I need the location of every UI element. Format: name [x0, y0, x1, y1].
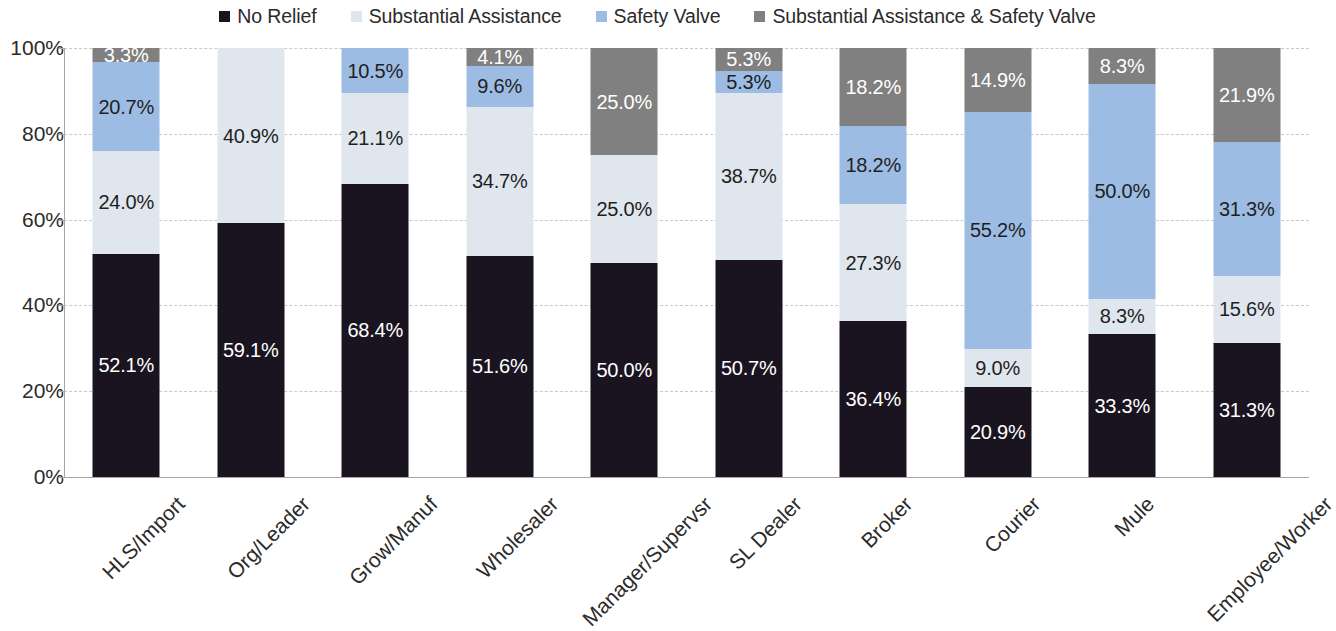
- legend-swatch-icon: [596, 11, 607, 22]
- bar-segment-value-label: 20.7%: [98, 97, 154, 117]
- bar-segment[interactable]: 68.4%: [342, 184, 409, 477]
- x-label-slot: Mule: [1060, 486, 1185, 608]
- bar-segment-value-label: 31.3%: [1219, 400, 1275, 420]
- bar-segment[interactable]: 50.0%: [1089, 84, 1156, 299]
- legend-item: No Relief: [219, 5, 316, 28]
- y-axis-tick-label: 40%: [0, 293, 64, 317]
- bar-segment[interactable]: 3.3%: [93, 48, 160, 62]
- bar-segment[interactable]: 27.3%: [840, 204, 907, 321]
- bar-segment[interactable]: 31.3%: [1213, 343, 1280, 477]
- bar-slot: 14.9%55.2%9.0%20.9%: [936, 48, 1061, 477]
- x-label-slot: Manager/Supervsr: [562, 486, 687, 608]
- bar-segment[interactable]: 21.1%: [342, 93, 409, 184]
- bar-segment[interactable]: 9.6%: [466, 66, 533, 107]
- bar-segment[interactable]: 36.4%: [840, 321, 907, 477]
- legend-item-label: Safety Valve: [614, 5, 721, 28]
- x-axis-category-label: Mule: [1110, 492, 1159, 541]
- legend-item-label: Substantial Assistance: [369, 5, 562, 28]
- stacked-bar[interactable]: 18.2%18.2%27.3%36.4%: [840, 48, 907, 477]
- bar-segment[interactable]: 20.7%: [93, 62, 160, 151]
- bar-segment-value-label: 25.0%: [596, 199, 652, 219]
- bar-segment[interactable]: 5.3%: [715, 71, 782, 94]
- x-axis-category-label: Wholesaler: [472, 492, 563, 583]
- x-label-slot: Employee/Worker: [1185, 486, 1310, 608]
- bar-segment[interactable]: 38.7%: [715, 93, 782, 259]
- bar-segment-value-label: 9.0%: [975, 358, 1020, 378]
- bar-segment-value-label: 10.5%: [347, 61, 403, 81]
- bar-slot: 5.3%5.3%38.7%50.7%: [687, 48, 812, 477]
- bar-segment[interactable]: 33.3%: [1089, 334, 1156, 477]
- bar-segment[interactable]: 52.1%: [93, 254, 160, 477]
- gridline: [64, 477, 1309, 478]
- y-axis-tick-label: 80%: [0, 122, 64, 146]
- stacked-bar[interactable]: 14.9%55.2%9.0%20.9%: [964, 48, 1031, 477]
- bar-segment[interactable]: 21.9%: [1213, 48, 1280, 142]
- stacked-bar[interactable]: 25.0%25.0%50.0%: [591, 48, 658, 477]
- bar-segment[interactable]: 18.2%: [840, 126, 907, 204]
- bar-slot: 21.9%31.3%15.6%31.3%: [1185, 48, 1310, 477]
- stacked-bar[interactable]: 8.3%50.0%8.3%33.3%: [1089, 48, 1156, 477]
- x-label-slot: Courier: [936, 486, 1061, 608]
- bar-segment-value-label: 55.2%: [970, 220, 1026, 240]
- y-axis-tick-label: 60%: [0, 208, 64, 232]
- bar-segment[interactable]: 8.3%: [1089, 299, 1156, 335]
- stacked-bar[interactable]: 3.3%20.7%24.0%52.1%: [93, 48, 160, 477]
- bar-segment[interactable]: 5.3%: [715, 48, 782, 71]
- bar-segment-value-label: 68.4%: [347, 320, 403, 340]
- bar-segment-value-label: 34.7%: [472, 171, 528, 191]
- x-label-slot: Org/Leader: [189, 486, 314, 608]
- bar-segment[interactable]: 18.2%: [840, 48, 907, 126]
- bar-segment[interactable]: 20.9%: [964, 387, 1031, 477]
- bar-segment-value-label: 51.6%: [472, 356, 528, 376]
- bar-segment-value-label: 20.9%: [970, 422, 1026, 442]
- bar-segment[interactable]: 25.0%: [591, 48, 658, 155]
- bar-segment[interactable]: 50.0%: [591, 263, 658, 478]
- bar-segment[interactable]: 9.0%: [964, 349, 1031, 388]
- bar-slot: 8.3%50.0%8.3%33.3%: [1060, 48, 1185, 477]
- bar-segment[interactable]: 40.9%: [217, 48, 284, 223]
- bar-segment[interactable]: 50.7%: [715, 260, 782, 478]
- bar-segment-value-label: 5.3%: [726, 72, 771, 92]
- legend-item-label: No Relief: [237, 5, 316, 28]
- stacked-bar[interactable]: 4.1%9.6%34.7%51.6%: [466, 48, 533, 477]
- bar-segment[interactable]: 8.3%: [1089, 48, 1156, 84]
- x-axis-category-label: Employee/Worker: [1202, 492, 1336, 627]
- bar-segment-value-label: 18.2%: [845, 155, 901, 175]
- bar-segment-value-label: 25.0%: [596, 92, 652, 112]
- x-axis-category-label: Org/Leader: [222, 492, 314, 584]
- bar-segment[interactable]: 55.2%: [964, 112, 1031, 349]
- bar-segment-value-label: 8.3%: [1100, 56, 1145, 76]
- stacked-bar[interactable]: 10.5%21.1%68.4%: [342, 48, 409, 477]
- bar-segment-value-label: 8.3%: [1100, 306, 1145, 326]
- legend-swatch-icon: [351, 11, 362, 22]
- bar-segment-value-label: 38.7%: [721, 166, 777, 186]
- bar-segment-value-label: 15.6%: [1219, 299, 1275, 319]
- legend-item: Substantial Assistance & Safety Valve: [754, 5, 1095, 28]
- bar-segment-value-label: 14.9%: [970, 70, 1026, 90]
- x-label-slot: Broker: [811, 486, 936, 608]
- bar-segment[interactable]: 31.3%: [1213, 142, 1280, 276]
- bar-segment-value-label: 21.9%: [1219, 85, 1275, 105]
- bar-segment[interactable]: 15.6%: [1213, 276, 1280, 343]
- bar-segment[interactable]: 14.9%: [964, 48, 1031, 112]
- bar-segment-value-label: 50.0%: [1094, 181, 1150, 201]
- bar-segment[interactable]: 59.1%: [217, 223, 284, 477]
- bar-segment[interactable]: 4.1%: [466, 48, 533, 66]
- stacked-bar[interactable]: 40.9%59.1%: [217, 48, 284, 477]
- bar-segment-value-label: 40.9%: [223, 126, 279, 146]
- bar-segment[interactable]: 25.0%: [591, 155, 658, 262]
- bar-slot: 18.2%18.2%27.3%36.4%: [811, 48, 936, 477]
- stacked-bar[interactable]: 21.9%31.3%15.6%31.3%: [1213, 48, 1280, 477]
- chart-plot-area: 0%20%40%60%80%100% 3.3%20.7%24.0%52.1%40…: [0, 34, 1315, 486]
- bar-slot: 3.3%20.7%24.0%52.1%: [64, 48, 189, 477]
- bar-segment-value-label: 9.6%: [477, 76, 522, 96]
- bar-segment[interactable]: 10.5%: [342, 48, 409, 93]
- bar-segment[interactable]: 34.7%: [466, 107, 533, 256]
- stacked-bar[interactable]: 5.3%5.3%38.7%50.7%: [715, 48, 782, 477]
- bar-segment[interactable]: 24.0%: [93, 151, 160, 254]
- bar-segment-value-label: 21.1%: [347, 128, 403, 148]
- bar-slot: 4.1%9.6%34.7%51.6%: [438, 48, 563, 477]
- x-axis-category-labels: HLS/ImportOrg/LeaderGrow/ManufWholesaler…: [64, 486, 1309, 608]
- bar-segment[interactable]: 51.6%: [466, 256, 533, 477]
- stacked-bar-group: 3.3%20.7%24.0%52.1%40.9%59.1%10.5%21.1%6…: [64, 48, 1309, 477]
